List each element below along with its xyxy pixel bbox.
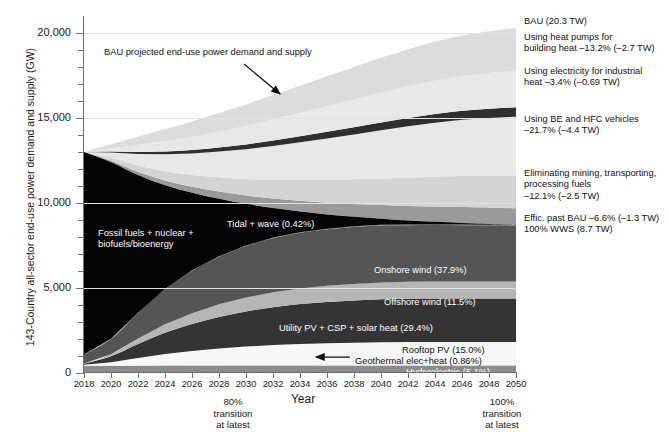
y-tick-minor bbox=[78, 67, 83, 68]
x-tick-mark bbox=[192, 373, 193, 378]
y-axis-line bbox=[83, 16, 84, 374]
callout-mining: Eliminating mining, transporting, proces… bbox=[524, 168, 669, 202]
callout-bau-line1: BAU (20.3 TW) bbox=[524, 16, 669, 27]
y-tick-minor bbox=[78, 322, 83, 323]
transition-100-line1: 100% bbox=[459, 396, 545, 408]
callout-industrial-heat-line2: heat –3.4% (–0.69 TW) bbox=[524, 77, 669, 88]
transition-80-line2: transition bbox=[190, 408, 276, 420]
y-tick-minor bbox=[78, 305, 83, 306]
y-tick-minor bbox=[78, 169, 83, 170]
utility-pv-label: Utility PV + CSP + solar heat (29.4%) bbox=[279, 323, 433, 335]
transition-80-line1: 80% bbox=[190, 396, 276, 408]
y-tick-minor bbox=[78, 339, 83, 340]
transition-100-line3: at latest bbox=[459, 419, 545, 431]
gridline bbox=[84, 118, 516, 119]
y-tick-minor bbox=[78, 271, 83, 272]
x-tick-mark bbox=[246, 373, 247, 378]
y-tick-label: 15,000 bbox=[5, 111, 71, 123]
callout-efficiency-line2: 100% WWS (8.7 TW) bbox=[524, 224, 669, 235]
rooftop-pv-label: Rooftop PV (15.0%) bbox=[402, 345, 485, 357]
stacked-area-series bbox=[84, 16, 516, 373]
y-tick-minor bbox=[78, 50, 83, 51]
y-tick-major bbox=[76, 118, 83, 119]
callout-mining-line1: Eliminating mining, transporting, bbox=[524, 168, 669, 179]
y-tick-label: 10,000 bbox=[5, 196, 71, 208]
transition-80-line3: at latest bbox=[190, 419, 276, 431]
callout-industrial-heat: Using electricity for industrial heat –3… bbox=[524, 66, 669, 89]
x-tick-mark bbox=[435, 373, 436, 378]
y-tick-label: 20,000 bbox=[5, 26, 71, 38]
callout-heat-pumps-line2: building heat –13.2% (–2.7 TW) bbox=[524, 43, 669, 54]
fossil-fuels-label-line1: Fossil fuels + nuclear + bbox=[98, 228, 194, 240]
callout-vehicles-line1: Using BE and HFC vehicles bbox=[524, 114, 669, 125]
y-tick-label: 0 bbox=[5, 366, 71, 378]
callout-efficiency: Effic. past BAU –6.6% (–1.3 TW) 100% WWS… bbox=[524, 213, 669, 236]
transition-100-line2: transition bbox=[459, 408, 545, 420]
callout-mining-line3: –12.1% (–2.5 TW) bbox=[524, 191, 669, 202]
transition-100-note: 100% transition at latest bbox=[459, 396, 545, 431]
y-tick-minor bbox=[78, 152, 83, 153]
y-tick-major bbox=[76, 373, 83, 374]
x-tick-mark bbox=[354, 373, 355, 378]
x-tick-mark bbox=[516, 373, 517, 378]
y-tick-minor bbox=[78, 220, 83, 221]
y-tick-label: 5,000 bbox=[5, 281, 71, 293]
x-tick-mark bbox=[219, 373, 220, 378]
onshore-wind-label: Onshore wind (37.9%) bbox=[374, 265, 467, 277]
callout-industrial-heat-line1: Using electricity for industrial bbox=[524, 66, 669, 77]
chart-figure: 143-Country all-sector end-use power dem… bbox=[0, 0, 669, 442]
y-tick-minor bbox=[78, 101, 83, 102]
x-tick-mark bbox=[165, 373, 166, 378]
tidal-wave-label: Tidal + wave (0.42%) bbox=[227, 219, 314, 231]
offshore-wind-label: Offshore wind (11.5%) bbox=[384, 297, 476, 309]
y-tick-minor bbox=[78, 237, 83, 238]
callout-heat-pumps-line1: Using heat pumps for bbox=[524, 32, 669, 43]
callout-vehicles: Using BE and HFC vehicles –21.7% (–4.4 T… bbox=[524, 114, 669, 137]
callout-vehicles-line2: –21.7% (–4.4 TW) bbox=[524, 125, 669, 136]
callout-bau: BAU (20.3 TW) bbox=[524, 16, 669, 27]
gridline bbox=[84, 33, 516, 34]
x-tick-mark bbox=[327, 373, 328, 378]
y-tick-minor bbox=[78, 254, 83, 255]
x-tick-mark bbox=[138, 373, 139, 378]
y-tick-major bbox=[76, 203, 83, 204]
y-tick-minor bbox=[78, 356, 83, 357]
callout-mining-line2: processing fuels bbox=[524, 179, 669, 190]
x-tick-mark bbox=[273, 373, 274, 378]
gridline bbox=[84, 203, 516, 204]
x-tick-label: 2050 bbox=[498, 379, 534, 389]
fossil-fuels-label-line2: biofuels/bioenergy bbox=[98, 239, 173, 251]
x-tick-mark bbox=[300, 373, 301, 378]
x-tick-mark bbox=[381, 373, 382, 378]
callout-heat-pumps: Using heat pumps for building heat –13.2… bbox=[524, 32, 669, 55]
y-tick-major bbox=[76, 288, 83, 289]
plot-area: BAU projected end-use power demand and s… bbox=[84, 16, 516, 373]
y-tick-minor bbox=[78, 186, 83, 187]
x-tick-mark bbox=[111, 373, 112, 378]
x-tick-mark bbox=[408, 373, 409, 378]
geothermal-label: Geothermal elec+heat (0.86%) bbox=[355, 356, 482, 368]
bau-projection-note: BAU projected end-use power demand and s… bbox=[104, 47, 312, 59]
transition-80-note: 80% transition at latest bbox=[190, 396, 276, 431]
x-tick-mark bbox=[84, 373, 85, 378]
y-tick-minor bbox=[78, 135, 83, 136]
callout-efficiency-line1: Effic. past BAU –6.6% (–1.3 TW) bbox=[524, 213, 669, 224]
x-tick-mark bbox=[462, 373, 463, 378]
x-tick-mark bbox=[489, 373, 490, 378]
y-tick-minor bbox=[78, 84, 83, 85]
y-tick-major bbox=[76, 33, 83, 34]
gridline bbox=[84, 288, 516, 289]
